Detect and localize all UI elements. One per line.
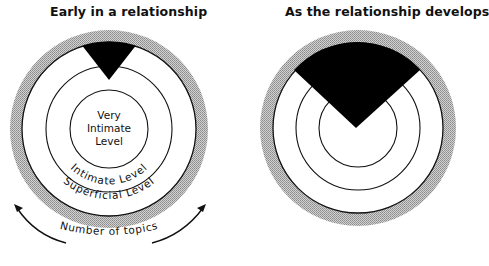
arrowhead-right-icon bbox=[197, 204, 206, 212]
left-onion-diagram: Very Intimate Level Intimate Level Super… bbox=[10, 30, 208, 243]
very-intimate-label-2: Intimate bbox=[87, 122, 131, 134]
very-intimate-label-1: Very bbox=[97, 109, 120, 121]
arrowhead-left-icon bbox=[14, 204, 23, 212]
right-onion-diagram bbox=[260, 30, 456, 226]
very-intimate-label-3: Level bbox=[95, 135, 123, 147]
